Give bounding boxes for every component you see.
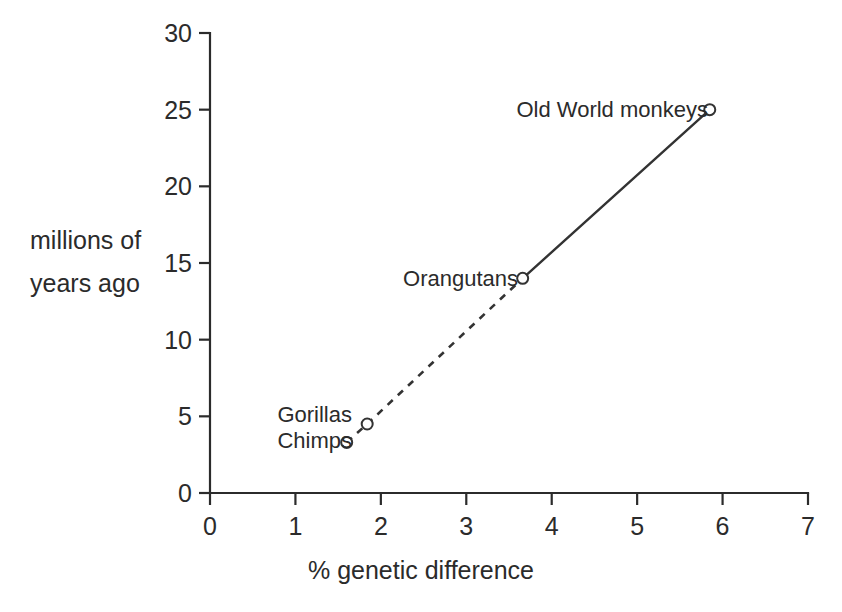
y-axis-title-line-2: years ago	[30, 262, 141, 305]
y-axis-title-line-1: millions of	[30, 219, 141, 262]
point-label-gorillas-chimps: Gorillas Chimps	[277, 402, 352, 454]
data-point-marker	[517, 273, 528, 284]
x-tick-label: 0	[203, 512, 217, 541]
series-segment-solid	[523, 110, 710, 279]
y-tick-label: 0	[130, 479, 192, 508]
point-label-gorillas: Gorillas	[277, 402, 352, 428]
y-tick-label: 30	[130, 19, 192, 48]
genetic-difference-scatter-chart: 051015202530 01234567 millions of years …	[0, 0, 842, 612]
y-tick-label: 25	[130, 95, 192, 124]
x-tick-label: 6	[716, 512, 730, 541]
x-tick-label: 1	[288, 512, 302, 541]
series-segment-dashed	[367, 278, 522, 424]
point-label-old-world-monkeys: Old World monkeys	[516, 97, 708, 123]
x-tick-label: 3	[459, 512, 473, 541]
y-tick-label: 10	[130, 325, 192, 354]
x-axis-title: % genetic difference	[0, 556, 842, 585]
x-tick-label: 4	[545, 512, 559, 541]
point-label-orangutans: Orangutans	[403, 266, 518, 292]
x-tick-label: 2	[374, 512, 388, 541]
data-point-marker	[362, 419, 373, 430]
y-tick-label: 5	[130, 402, 192, 431]
x-tick-label: 5	[630, 512, 644, 541]
y-tick-label: 20	[130, 172, 192, 201]
x-tick-label: 7	[801, 512, 815, 541]
y-axis-title: millions of years ago	[30, 219, 141, 305]
point-label-chimps: Chimps	[277, 428, 352, 454]
